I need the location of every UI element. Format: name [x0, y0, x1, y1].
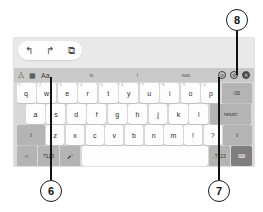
key-label: e [65, 90, 69, 97]
key-a[interactable]: a [26, 104, 45, 124]
sticker-icon[interactable]: ⧊ [18, 72, 24, 79]
key-label: y [127, 90, 131, 97]
shift-right-key[interactable]: ⇧ [223, 125, 251, 145]
key-label: z [54, 132, 58, 139]
key-label: u [147, 90, 151, 97]
key-m[interactable]: m [164, 125, 182, 145]
key-alt-label: 5 [101, 84, 103, 88]
return-key[interactable]: return [210, 104, 252, 124]
key-y[interactable]: 6y [119, 83, 138, 103]
numeric-left-label: ?123 [43, 154, 54, 159]
key-alt-label: 6 [121, 84, 123, 88]
grid-keyboard-icon[interactable]: ▦ [29, 72, 36, 79]
key-sub-label: . [212, 138, 213, 143]
key-label: k [177, 111, 181, 118]
close-keyboard-icon[interactable]: ✕ [242, 71, 250, 79]
key-l[interactable]: l [189, 104, 208, 124]
key-v[interactable]: v [105, 125, 123, 145]
suggestion-word[interactable]: is [90, 72, 94, 78]
suggestion-word[interactable]: I [137, 72, 138, 78]
key-r[interactable]: 4r [78, 83, 97, 103]
backspace-key[interactable]: ⌫ [222, 83, 252, 103]
callout-6-label: 6 [48, 185, 54, 197]
key-h[interactable]: h [128, 104, 147, 124]
key-label: s [54, 111, 58, 118]
key-label: d [74, 111, 78, 118]
suggestion-words: is I was [62, 72, 218, 78]
key-c[interactable]: c [86, 125, 104, 145]
key-alt-label: 4 [80, 84, 82, 88]
key-k[interactable]: k [169, 104, 188, 124]
callout-8: 8 [226, 9, 248, 31]
key-alt-label: 2 [39, 84, 41, 88]
callout-7-label: 7 [216, 185, 222, 197]
redo-icon[interactable]: ↱ [46, 46, 54, 56]
key-alt-label: 1 [19, 84, 21, 88]
key-b[interactable]: b [125, 125, 143, 145]
callout-8-leader-line [236, 31, 238, 75]
numeric-left-key[interactable]: ?123 [38, 146, 58, 166]
key-label: b [132, 132, 136, 139]
key-label: q [24, 90, 28, 97]
key-label: g [115, 111, 119, 118]
key-label: w [44, 90, 49, 97]
shift-left-key[interactable]: ⇧ [17, 125, 45, 145]
key-label: n [152, 132, 156, 139]
key-label: h [136, 111, 140, 118]
key-d[interactable]: d [67, 104, 86, 124]
callout-6: 6 [40, 180, 62, 202]
edit-toolbar-strip: ↰ ↱ ⧉ [14, 38, 254, 68]
key-label: o [188, 90, 192, 97]
text-style-aa-icon[interactable]: Aa [41, 72, 50, 79]
callout-8-label: 8 [234, 14, 240, 26]
shift-icon: ⇧ [235, 133, 239, 138]
key-n[interactable]: n [145, 125, 163, 145]
copy-icon[interactable]: ⧉ [68, 46, 75, 56]
key-sub-label: , [193, 138, 194, 143]
key-alt-label: 7 [142, 84, 144, 88]
key-u[interactable]: 7u [140, 83, 159, 103]
key-t[interactable]: 5t [99, 83, 118, 103]
callout-7-leader-line [218, 77, 220, 180]
suggestion-word[interactable]: was [181, 72, 190, 78]
key-label: t [107, 90, 109, 97]
key-alt-label: 0 [203, 84, 205, 88]
key-w[interactable]: 2w [37, 83, 56, 103]
key-label: l [198, 111, 200, 118]
space-key[interactable] [82, 146, 208, 166]
callout-6-leader-line [50, 77, 52, 180]
key-label: p [209, 90, 213, 97]
hide-keyboard-icon: ⌨ [238, 154, 245, 159]
shift-icon: ⇧ [29, 133, 33, 138]
key-label: j [157, 111, 159, 118]
emoji-icon: ☺ [24, 154, 29, 159]
key-label: x [73, 132, 77, 139]
microphone-key[interactable]: 🎤 [60, 146, 80, 166]
key-exclamation-comma[interactable]: !, [184, 125, 202, 145]
key-e[interactable]: 3e [58, 83, 77, 103]
key-f[interactable]: f [87, 104, 106, 124]
microphone-icon: 🎤 [67, 154, 73, 159]
return-key-label: return [224, 112, 237, 117]
key-i[interactable]: 8i [160, 83, 179, 103]
callout-7: 7 [208, 180, 230, 202]
key-label: v [113, 132, 117, 139]
key-label: f [96, 111, 98, 118]
edit-toolbar-pill: ↰ ↱ ⧉ [18, 41, 82, 60]
undo-icon[interactable]: ↰ [25, 46, 33, 56]
key-q[interactable]: 1q [17, 83, 36, 103]
key-label: r [86, 90, 88, 97]
key-g[interactable]: g [108, 104, 127, 124]
backspace-icon: ⌫ [233, 91, 240, 96]
key-z[interactable]: z [46, 125, 64, 145]
emoji-key[interactable]: ☺ [17, 146, 37, 166]
key-label: a [34, 111, 38, 118]
key-x[interactable]: x [66, 125, 84, 145]
hide-keyboard-key[interactable]: ⌨ [231, 146, 251, 166]
key-alt-label: 3 [60, 84, 62, 88]
key-j[interactable]: j [149, 104, 168, 124]
key-o[interactable]: 9o [181, 83, 200, 103]
key-label: i [169, 90, 171, 97]
key-label: m [170, 132, 176, 139]
suggestion-bar-left-icons: ⧊ ▦ Aa [14, 72, 62, 79]
